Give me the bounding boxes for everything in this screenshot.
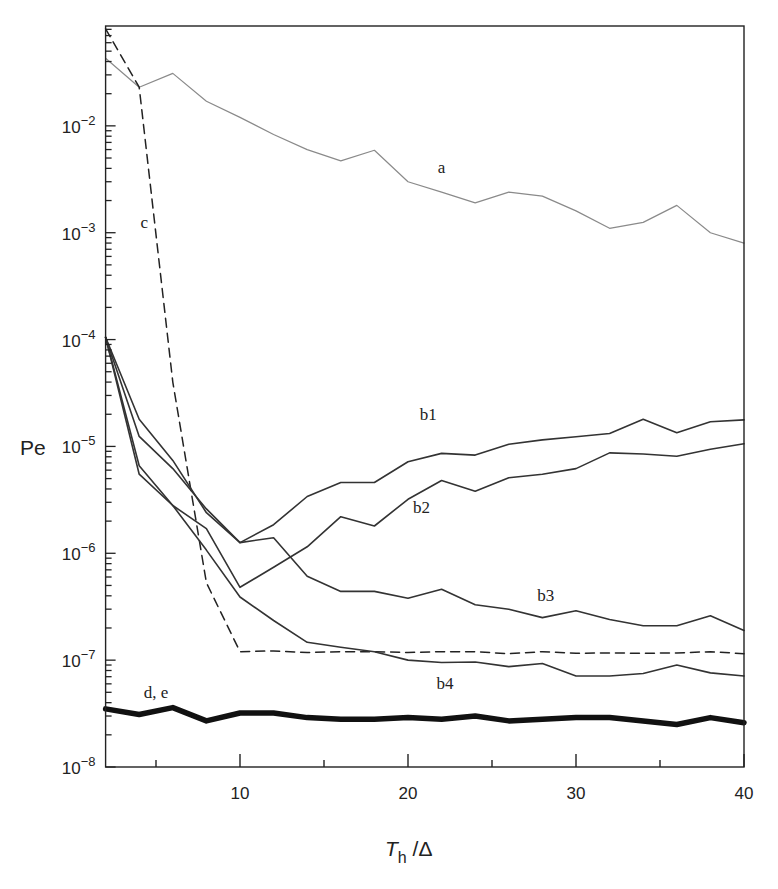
x-tick-label: 40: [735, 784, 754, 803]
curve-labels: acb1b2b3b4d, e: [140, 158, 554, 702]
series-layer: [106, 29, 744, 725]
x-tick-label: 30: [567, 784, 586, 803]
curve-label-d-e: d, e: [144, 683, 169, 702]
curve-label-b2: b2: [413, 498, 430, 517]
series-a: [106, 58, 744, 243]
y-tick-label: 10−8: [62, 754, 96, 778]
y-tick-label: 10−3: [62, 220, 96, 244]
x-axis-title: Th /Δ: [385, 837, 432, 866]
y-axis-title: Pe: [20, 436, 46, 459]
plot-area-border: [106, 26, 744, 767]
curve-label-c: c: [140, 213, 148, 232]
x-tick-label: 10: [231, 784, 250, 803]
series-c: [106, 29, 744, 654]
y-tick-label: 10−4: [62, 327, 96, 351]
x-tick-label: 20: [399, 784, 418, 803]
series-d-e: [106, 708, 744, 725]
plot-frame: [106, 26, 744, 767]
curve-label-a: a: [438, 158, 446, 177]
series-b3: [106, 337, 744, 630]
y-tick-label: 10−6: [62, 540, 96, 564]
curve-label-b1: b1: [420, 405, 437, 424]
y-tick-label: 10−2: [62, 113, 96, 137]
y-tick-label: 10−5: [62, 433, 96, 457]
curve-label-b3: b3: [537, 586, 554, 605]
x-axis-title-rest: /Δ: [407, 837, 433, 860]
y-tick-label: 10−7: [62, 647, 96, 671]
chart: 1020304010−810−710−610−510−410−310−2 acb…: [0, 0, 778, 889]
x-axis-title-sub: h: [398, 849, 407, 866]
curve-label-b4: b4: [436, 674, 454, 693]
